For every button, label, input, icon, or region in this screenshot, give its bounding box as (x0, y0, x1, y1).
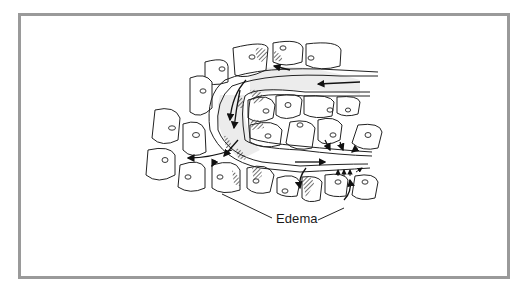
cells (146, 41, 382, 201)
edema-label: Edema (276, 211, 318, 226)
tissue-illustration (0, 0, 522, 285)
